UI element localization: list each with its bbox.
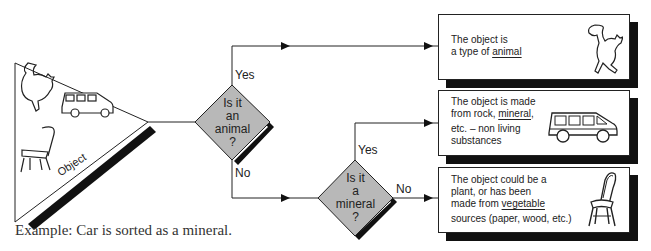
decision-line: ? — [205, 136, 260, 149]
cat-icon — [583, 19, 623, 75]
outcome-animal-text: The object is a type of animal — [451, 34, 522, 58]
outcome-line: etc. – non living — [451, 123, 536, 135]
outcome-vegetable-box: The object could be a plant, or has been… — [438, 167, 630, 233]
chair-icon — [587, 170, 619, 230]
outcome-vegetable-text: The object could be a plant, or has been… — [451, 174, 572, 225]
decision-line: ? — [328, 211, 383, 224]
yes-label-2: Yes — [358, 143, 378, 157]
example-caption: Example: Car is sorted as a mineral. — [15, 222, 232, 239]
no-label-2: No — [396, 182, 411, 196]
outcome-animal-box: The object is a type of animal — [438, 14, 630, 80]
decision-mineral-text: Is it a mineral ? — [328, 172, 383, 224]
outcome-line: from rock, mineral, — [451, 108, 536, 120]
outcome-text: a type of — [451, 46, 492, 57]
outcome-line: The object is made — [451, 96, 536, 108]
object-triangle — [15, 63, 148, 222]
keyword-mineral: mineral — [498, 108, 531, 119]
outcome-line: plant, or has been — [451, 186, 572, 198]
outcome-text: from rock, — [451, 108, 498, 119]
outcome-line: a type of animal — [451, 46, 522, 58]
keyword-animal: animal — [492, 46, 521, 57]
no-label-1: No — [235, 166, 250, 180]
outcome-line: sources (paper, wood, etc.) — [451, 213, 572, 225]
yes-label-1: Yes — [235, 68, 255, 82]
outcome-text: made from — [451, 198, 502, 209]
outcome-line: The object is — [451, 34, 522, 46]
keyword-vegetable: vegetable — [502, 198, 545, 209]
outcome-line: substances — [451, 135, 536, 147]
outcome-mineral-box: The object is made from rock, mineral, e… — [438, 90, 630, 156]
outcome-text: , — [531, 108, 534, 119]
car-icon — [545, 105, 621, 145]
outcome-line: made from vegetable — [451, 198, 572, 210]
decision-animal-text: Is it an animal ? — [205, 97, 260, 149]
outcome-mineral-text: The object is made from rock, mineral, e… — [451, 96, 536, 147]
outcome-line: The object could be a — [451, 174, 572, 186]
car-icon — [62, 93, 113, 117]
